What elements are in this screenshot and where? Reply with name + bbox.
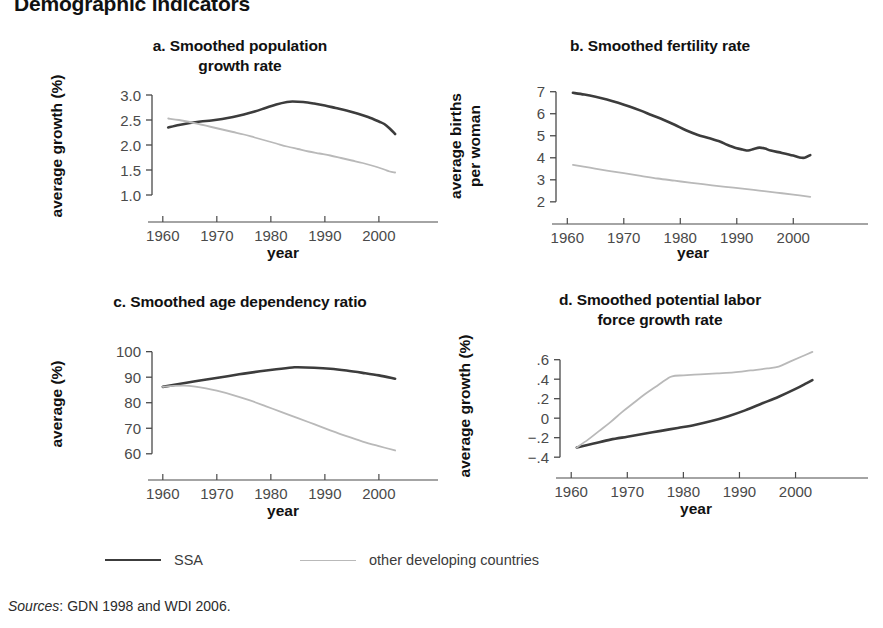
legend-item: other developing countries (300, 548, 539, 572)
series-line-other-developing-countries (168, 119, 395, 173)
x-tick-label: 2000 (779, 483, 812, 500)
x-tick-label: 1990 (308, 485, 341, 502)
y-tick-label: .6 (536, 351, 549, 368)
series-line-ssa (168, 102, 395, 135)
y-tick-label: .2 (536, 390, 549, 407)
x-axis-label: year (680, 500, 712, 517)
legend-swatch-ssa (105, 559, 161, 561)
panel-a-plot: 1.01.52.02.53.019601970198019902000yeara… (40, 36, 440, 266)
y-tick-label: 80 (124, 394, 141, 411)
x-tick-label: 1980 (254, 485, 287, 502)
y-tick-label: 1.5 (120, 162, 141, 179)
panel-c-plot: 6070809010019601970198019902000yearavera… (40, 292, 440, 522)
x-tick-label: 1990 (720, 229, 753, 246)
chart-panel-b: b. Smoothed fertility rate23456719601970… (450, 36, 870, 266)
x-tick-label: 1960 (146, 485, 179, 502)
y-tick-label: 7 (537, 83, 545, 100)
x-tick-label: 1990 (723, 483, 756, 500)
x-tick-label: 1970 (607, 229, 640, 246)
y-tick-label: 2.0 (120, 137, 141, 154)
legend-swatch-other-developing-countries (300, 560, 356, 561)
chart-panel-a: a. Smoothed populationgrowth rate1.01.52… (40, 36, 440, 266)
x-tick-label: 2000 (362, 227, 395, 244)
series-line-ssa (573, 93, 810, 158)
y-axis-label: average growth (%) (456, 335, 473, 478)
chart-panel-c: c. Smoothed age dependency ratio60708090… (40, 292, 440, 522)
x-tick-label: 2000 (777, 229, 810, 246)
legend-item: SSA (105, 548, 203, 572)
y-tick-label: 90 (124, 369, 141, 386)
series-line-other-developing-countries (163, 386, 395, 451)
y-tick-label: 2.5 (120, 112, 141, 129)
y-tick-label: .4 (536, 371, 549, 388)
x-tick-label: 1960 (146, 227, 179, 244)
panel-b-plot: 23456719601970198019902000yearaverage bi… (450, 36, 870, 266)
y-tick-label: 70 (124, 420, 141, 437)
y-tick-label: 4 (537, 149, 545, 166)
x-tick-label: 1970 (200, 485, 233, 502)
y-tick-label: 2 (537, 193, 545, 210)
figure-title: Demographic indicators (14, 0, 250, 16)
y-tick-label: 5 (537, 127, 545, 144)
x-axis-label: year (677, 244, 709, 261)
y-tick-label: 3.0 (120, 87, 141, 104)
x-axis-label: year (267, 244, 299, 261)
x-tick-label: 1960 (555, 483, 588, 500)
y-axis-label: average births (450, 93, 464, 199)
y-tick-label: 1.0 (120, 187, 141, 204)
y-axis-label: average (%) (48, 360, 65, 447)
x-axis-label: year (267, 502, 299, 519)
sources-label: Sources (8, 598, 59, 614)
y-tick-label: 3 (537, 171, 545, 188)
x-tick-label: 1960 (551, 229, 584, 246)
series-line-other-developing-countries (577, 352, 813, 448)
y-axis-label: per woman (466, 105, 483, 187)
figure-demographic-indicators: Demographic indicators a. Smoothed popul… (0, 0, 883, 628)
y-tick-label: −.2 (528, 429, 549, 446)
y-axis-label: average growth (%) (48, 75, 65, 218)
x-tick-label: 1970 (611, 483, 644, 500)
legend-label: other developing countries (369, 552, 539, 568)
y-tick-label: 60 (124, 445, 141, 462)
y-tick-label: 6 (537, 105, 545, 122)
y-tick-label: 100 (116, 343, 141, 360)
legend-label: SSA (174, 552, 203, 568)
x-tick-label: 1980 (667, 483, 700, 500)
y-tick-label: 0 (541, 410, 549, 427)
x-tick-label: 2000 (362, 485, 395, 502)
y-tick-label: −.4 (528, 449, 549, 466)
chart-panel-d: d. Smoothed potential laborforce growth … (450, 292, 870, 522)
panel-d-plot: −.4−.20.2.4.619601970198019902000yearave… (450, 292, 870, 522)
series-line-ssa (163, 367, 395, 387)
sources-note: Sources: GDN 1998 and WDI 2006. (8, 598, 231, 614)
sources-value: : GDN 1998 and WDI 2006. (59, 598, 230, 614)
x-tick-label: 1980 (254, 227, 287, 244)
series-line-ssa (577, 380, 813, 447)
x-tick-label: 1990 (308, 227, 341, 244)
chart-legend: SSAother developing countries (0, 548, 600, 578)
x-tick-label: 1970 (200, 227, 233, 244)
series-line-other-developing-countries (573, 165, 810, 197)
